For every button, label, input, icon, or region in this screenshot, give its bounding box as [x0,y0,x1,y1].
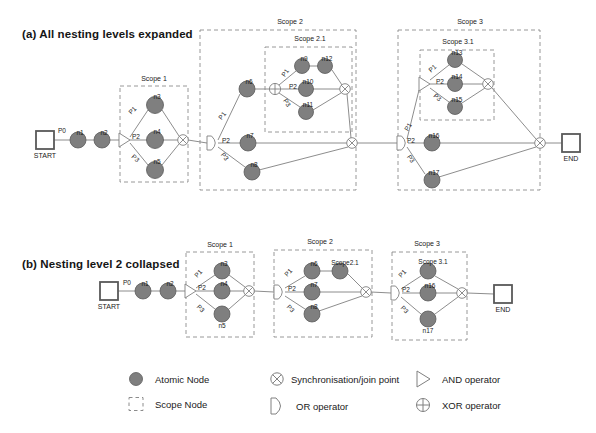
and-operator-icon[interactable] [185,284,196,298]
terminal-icon[interactable] [494,285,512,303]
legend-scope-node: Scope Node [129,398,207,411]
atomic-node[interactable]: n8 [304,303,320,323]
node-label: n4 [220,280,228,287]
legend-atomic-node: Atomic Node [130,373,210,386]
atomic-node[interactable]: n6 [304,260,320,280]
edge-label: P2 [436,78,444,85]
node-label: n6 [245,78,253,85]
atomic-node[interactable]: n16 [420,282,436,302]
terminal-icon[interactable] [100,282,118,300]
collapsed-scope-node[interactable]: Scope2.1 [331,259,359,279]
edge [229,295,245,309]
atomic-node[interactable]: n17 [424,169,440,189]
atomic-node[interactable]: n17 [420,311,436,334]
atomic-node[interactable]: n2 [94,129,110,149]
atomic-node-icon[interactable] [214,306,230,322]
join-scope1[interactable] [244,286,255,297]
collapsed-scope-node[interactable]: Scope 3.1 [418,258,448,279]
edge [467,293,494,294]
scope-label: Scope 1 [141,75,167,83]
or-operator-scope3[interactable] [391,286,399,300]
edge-label: P3 [400,304,411,315]
edge [492,88,536,139]
atomic-node[interactable]: n6 [239,78,255,98]
or-operator-scope2[interactable] [207,136,215,150]
node-label: n4 [153,128,161,135]
node-label: n11 [303,101,314,108]
or-operator-icon[interactable] [391,286,399,300]
or-operator-scope2[interactable] [274,285,282,299]
edge-label: P1 [427,63,438,74]
atomic-node[interactable]: n12 [318,55,333,74]
join-scope2[interactable] [347,138,358,149]
panel-a-nodes: n1n2n3n4n5n6n7n8n9n10n11n12n13n14n15n16n… [34,49,580,188]
or-operator-icon[interactable] [274,285,282,299]
atomic-node-icon[interactable] [420,263,436,279]
atomic-node[interactable]: n1 [70,129,86,149]
and-operator-icon[interactable] [419,77,430,91]
atomic-node[interactable]: n7 [304,281,320,301]
or-operator-scope3[interactable] [397,136,405,150]
scope-node-icon[interactable] [200,30,356,190]
atomic-node[interactable]: n16 [424,132,440,152]
atomic-node[interactable]: n2 [160,280,176,300]
node-label: n17 [423,327,434,334]
legend-label: OR operator [296,401,348,412]
terminal-icon[interactable] [36,131,54,149]
and-operator-scope3-1[interactable] [419,77,430,91]
atomic-node[interactable]: n1 [135,280,151,300]
join-scope2-1[interactable] [340,84,351,95]
edge [162,144,179,165]
atomic-node[interactable]: n4 [147,128,164,149]
terminal-start[interactable]: START [34,131,57,159]
node-label: n7 [246,132,254,139]
atomic-node[interactable]: n9 [295,55,310,74]
edge-label: P1 [397,268,408,279]
terminal-icon[interactable] [562,134,580,152]
atomic-node[interactable]: n8 [244,161,260,181]
atomic-node[interactable]: n15 [448,96,463,115]
terminal-label: START [34,152,57,159]
atomic-node[interactable]: n13 [448,49,463,68]
node-label: n2 [100,129,108,136]
and-operator-scope1[interactable] [185,284,196,298]
join-scope3[interactable] [457,288,468,299]
panel-a-scopes: Scope 1Scope 2Scope 2.1Scope 3Scope 3.1 [120,18,540,190]
atomic-node[interactable]: n7 [240,132,256,152]
node-label: n17 [429,169,440,176]
edge [435,297,458,314]
join-scope3-1[interactable] [483,79,494,90]
edge-label: P2 [402,286,410,293]
and-operator-icon[interactable] [119,133,130,147]
scope-label: Scope 3.1 [442,38,474,46]
terminal-start[interactable]: START [98,282,121,310]
terminal-label: END [564,155,579,162]
node-label: n8 [310,303,318,310]
edge-label: P3 [286,303,297,314]
atomic-node[interactable]: n3 [147,93,164,114]
edge-label: P1 [193,268,204,279]
atomic-node[interactable]: n10 [299,78,314,97]
terminal-end[interactable]: END [562,134,580,162]
join-scope2[interactable] [361,287,372,298]
atomic-node[interactable]: n3 [214,260,230,280]
scope-node[interactable]: Scope 2 [200,18,356,190]
atomic-node[interactable]: n5 [214,306,230,329]
atomic-node[interactable]: n14 [448,73,463,92]
node-label: n1 [76,129,84,136]
atomic-node[interactable]: n11 [299,101,314,120]
or-operator-icon[interactable] [397,136,405,150]
atomic-node-icon[interactable] [420,311,436,327]
atomic-node[interactable]: n5 [147,158,164,179]
and-operator-scope1[interactable] [119,133,130,147]
edge-label: P1 [403,121,413,132]
join-scope3[interactable] [535,138,546,149]
scope-label: Scope 1 [207,241,233,249]
atomic-node[interactable]: n4 [214,280,230,300]
xor-operator-scope2-1[interactable] [269,83,280,94]
or-operator-icon[interactable] [207,136,215,150]
terminal-end[interactable]: END [494,285,512,313]
join-scope1[interactable] [178,135,189,146]
edge-label: P0 [58,127,66,134]
and-operator-icon [417,371,430,387]
